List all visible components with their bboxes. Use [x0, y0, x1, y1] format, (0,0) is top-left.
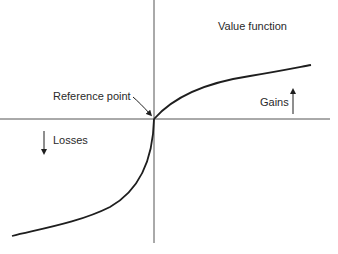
reference-point-label: Reference point: [53, 90, 131, 102]
gains-label: Gains: [260, 96, 289, 108]
gain-curve: [154, 65, 311, 119]
diagram-canvas: [0, 0, 338, 254]
diagram-title: Value function: [218, 20, 287, 32]
value-function-diagram: Value function Reference point Gains Los…: [0, 0, 338, 254]
reference-arrow: [133, 97, 150, 114]
losses-label: Losses: [53, 134, 88, 146]
